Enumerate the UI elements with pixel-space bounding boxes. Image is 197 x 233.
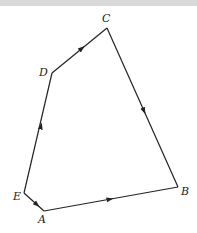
edge-d-c <box>52 28 107 73</box>
vector-polygon-diagram: A B C D E <box>0 0 197 233</box>
edge-e-d <box>24 73 52 193</box>
edge-e-a <box>24 193 44 211</box>
vertex-label-d: D <box>38 66 48 79</box>
edge-c-b <box>107 28 178 187</box>
edge-a-b <box>44 187 178 211</box>
vertex-label-b: B <box>180 185 189 198</box>
vertex-label-e: E <box>12 190 21 203</box>
vertex-label-a: A <box>37 213 46 226</box>
vertex-label-c: C <box>102 12 111 25</box>
